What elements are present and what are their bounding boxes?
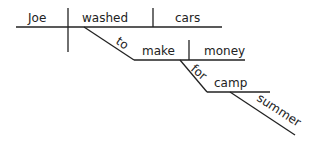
preposition-word: for (188, 62, 210, 83)
object-word: cars (175, 11, 200, 25)
infinitive-object-word: money (204, 44, 245, 58)
prep-object-word: camp (214, 76, 247, 90)
infinitive-marker-word: to (113, 34, 131, 52)
subject-word: Joe (27, 11, 46, 25)
verb-word: washed (82, 11, 128, 25)
infinitive-verb-word: make (142, 44, 175, 58)
sentence-diagram: Joe washed cars to make money for camp s… (0, 0, 312, 142)
